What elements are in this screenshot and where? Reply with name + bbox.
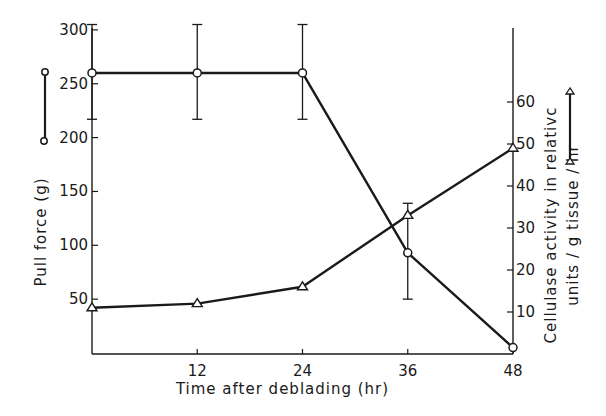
right-tick-label: 20 — [516, 261, 535, 279]
circle-marker-icon — [88, 69, 96, 77]
left-tick-label: 300 — [59, 21, 88, 39]
left-tick-label: 200 — [59, 129, 88, 147]
circle-marker-icon — [404, 249, 412, 257]
circle-marker-icon — [299, 69, 307, 77]
right-tick-label: 30 — [516, 219, 535, 237]
right-axis-label-line2: units / g tissue / hr — [564, 144, 582, 305]
x-tick-label: 48 — [503, 362, 522, 380]
left-tick-label: 250 — [59, 75, 88, 93]
right-tick-label: 40 — [516, 177, 535, 195]
circle-marker-icon — [193, 69, 201, 77]
left-axis-label: Pull force (g) — [32, 177, 50, 286]
legend-circle-icon — [41, 138, 47, 144]
x-axis-label: Time after deblading (hr) — [175, 380, 389, 398]
left-tick-label: 150 — [59, 182, 88, 200]
circle-marker-icon — [509, 344, 517, 352]
left-tick-label: 100 — [59, 236, 88, 254]
left-tick-label: 50 — [69, 290, 88, 308]
legend-circle-icon — [42, 69, 48, 75]
chart: 5010015020025030010203040506012243648Tim… — [0, 0, 606, 416]
right-tick-label: 10 — [516, 303, 535, 321]
right-tick-label: 60 — [516, 93, 535, 111]
legend-triangle-icon — [566, 88, 574, 94]
x-tick-label: 12 — [188, 362, 207, 380]
right-tick-label: 50 — [516, 135, 535, 153]
right-axis-label-line1: Cellulase activity in relativc — [542, 107, 560, 344]
x-tick-label: 36 — [398, 362, 417, 380]
x-tick-label: 24 — [293, 362, 312, 380]
